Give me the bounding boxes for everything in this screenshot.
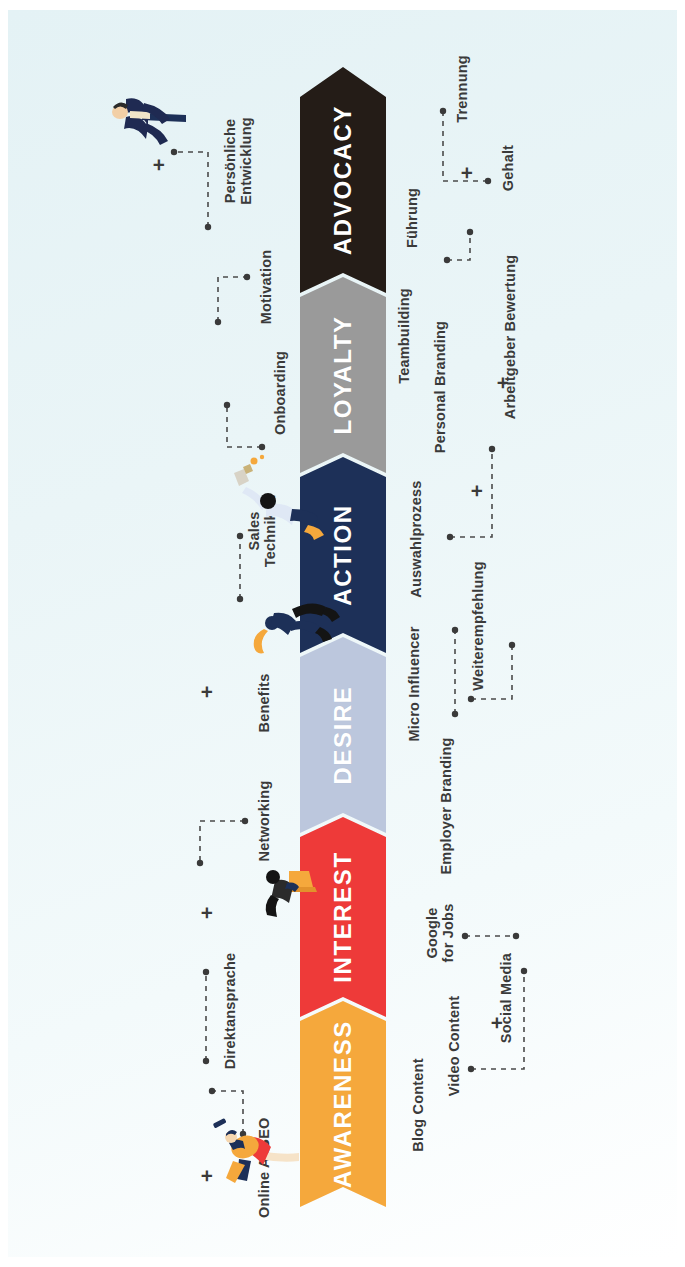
touchpoint-social-media[interactable]: Social Media	[498, 943, 514, 1053]
illustration-person-celebrating-champagne	[212, 447, 336, 567]
illustration-person-walking-orange	[205, 1101, 313, 1205]
separator-plus: +	[196, 686, 217, 698]
separator-plus: +	[456, 167, 477, 179]
funnel-segment-advocacy[interactable]: ADVOCACY	[300, 67, 386, 293]
funnel-segment-label: LOYALTY	[329, 315, 357, 434]
separator-plus: +	[466, 485, 487, 497]
touchpoint-motivation[interactable]: Motivation	[258, 235, 274, 339]
funnel-segment-label: DESIRE	[329, 686, 357, 785]
infographic-canvas: AWARENESS INTEREST DESIRE ACTION LOYALTY…	[0, 0, 685, 1267]
touchpoint-arbeitgeber-bewertung[interactable]: Arbeitgeber Bewertung	[502, 245, 518, 429]
touchpoint-micro-influencer[interactable]: Micro Influencer	[406, 615, 422, 753]
touchpoint-direktansprache[interactable]: Direktansprache	[222, 941, 238, 1081]
touchpoint-employer-branding[interactable]: Employer Branding	[438, 731, 454, 881]
touchpoint-trennung[interactable]: Trennung	[454, 41, 470, 137]
rotated-wrapper: AWARENESS INTEREST DESIRE ACTION LOYALTY…	[0, 0, 685, 1267]
separator-plus: +	[196, 907, 217, 919]
touchpoint-teambuilding[interactable]: Teambuilding	[396, 277, 412, 395]
touchpoint-persoenliche-entwicklung[interactable]: Persönliche Entwicklung	[222, 97, 254, 225]
touchpoint-google-for-jobs[interactable]: Google for Jobs	[424, 899, 456, 967]
touchpoint-blog-content[interactable]: Blog Content	[410, 1049, 426, 1161]
funnel-segment-label: AWARENESS	[329, 1020, 357, 1188]
funnel-segment-loyalty[interactable]: LOYALTY	[300, 277, 386, 473]
illustration-person-standing-suit	[96, 59, 220, 179]
illustration-person-sitting-on-arrow	[238, 569, 354, 681]
illustration-person-with-laptop	[245, 845, 341, 937]
touchpoint-auswahlprozess[interactable]: Auswahlprozess	[408, 471, 424, 607]
touchpoint-gehalt[interactable]: Gehalt	[500, 131, 516, 205]
touchpoint-video-content[interactable]: Video Content	[446, 987, 462, 1105]
touchpoint-fuehrung[interactable]: Führung	[404, 175, 420, 261]
touchpoint-onboarding[interactable]: Onboarding	[272, 337, 288, 449]
touchpoint-personal-branding[interactable]: Personal Branding	[432, 313, 448, 461]
touchpoint-weiterempfehlung[interactable]: Weiterempfehlung	[470, 547, 486, 705]
funnel-diagram: AWARENESS INTEREST DESIRE ACTION LOYALTY…	[0, 0, 685, 1267]
funnel-segment-label: ADVOCACY	[329, 105, 357, 255]
